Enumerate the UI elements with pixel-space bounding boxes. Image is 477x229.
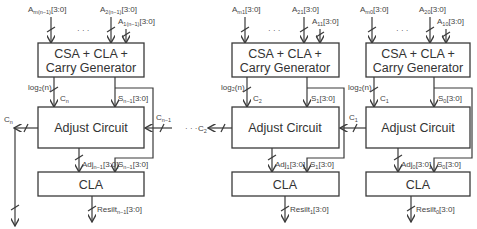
cla-label: CLA xyxy=(79,178,104,192)
adj-label: Adj1[3:0] xyxy=(275,160,305,170)
carry-in-label: C2 xyxy=(253,94,262,104)
block-n-minus-1: Am(n−1)[3:0] A2(n−1)[3:0] A1(n−1)[3:0] ·… xyxy=(4,5,172,226)
input-label-a1: A11[3:0] xyxy=(312,17,339,27)
ellipsis: · · · xyxy=(268,26,280,35)
block-0: Am0[3:0] A20[3:0] A10[3:0] · · · CSA + C… xyxy=(348,5,472,222)
carry-out-label: Cn xyxy=(4,115,13,125)
sum2-label: S0[3:0] xyxy=(437,160,461,170)
adjust-label: Adjust Circuit xyxy=(248,121,322,135)
csa-label: CSA + CLA + xyxy=(54,47,128,61)
adj-label: Adjn−1[3:0] xyxy=(82,160,118,170)
input-label-a1: A10[3:0] xyxy=(437,17,464,27)
adj-label: Adj0[3:0] xyxy=(401,160,431,170)
carry-save-adder-diagram: Am(n−1)[3:0] A2(n−1)[3:0] A1(n−1)[3:0] ·… xyxy=(0,0,477,229)
cla-label: CLA xyxy=(273,178,298,192)
sum-label: Sn−1[3:0] xyxy=(118,94,148,104)
block-1: Am1[3:0] A21[3:0] A11[3:0] · · · CSA + C… xyxy=(198,5,366,222)
result-label: Resilt1[3:0] xyxy=(290,205,329,215)
carry-out-label: C2 xyxy=(198,124,207,134)
adjust-label: Adjust Circuit xyxy=(54,121,128,135)
sum-label: S0[3:0] xyxy=(438,94,462,104)
input-label-am: Am(n−1)[3:0] xyxy=(28,5,67,15)
csa-label: CSA + CLA + xyxy=(381,47,455,61)
ellipsis: · · · xyxy=(396,26,408,35)
csa-label: Carry Generator xyxy=(240,61,330,75)
sum2-label: Sn−1[3:0] xyxy=(118,160,148,170)
input-label-a1: A1(n−1)[3:0] xyxy=(118,17,155,27)
input-label-am: Am1[3:0] xyxy=(232,5,261,15)
carry-right-label: Cn−1 xyxy=(156,113,171,123)
cla-label: CLA xyxy=(406,178,431,192)
input-label-a2: A21[3:0] xyxy=(292,5,319,15)
sum2-label: S1[3:0] xyxy=(310,160,334,170)
ellipsis: · · · xyxy=(185,124,197,133)
csa-label: Carry Generator xyxy=(46,61,136,75)
input-label-a2: A20[3:0] xyxy=(419,5,446,15)
sum-label: S1[3:0] xyxy=(311,94,335,104)
log2n-label: log₂(n) xyxy=(221,83,245,92)
input-label-am: Am0[3:0] xyxy=(360,5,389,15)
carry-right-label: C1 xyxy=(349,113,358,123)
result-label: Resiltn−1[3:0] xyxy=(97,205,142,215)
carry-in-label: Cn xyxy=(60,94,69,104)
adjust-label: Adjust Circuit xyxy=(381,121,455,135)
ellipsis: · · · xyxy=(77,26,89,35)
result-label: Resilt0[3:0] xyxy=(416,205,455,215)
carry-in-label: C1 xyxy=(380,94,389,104)
log2n-label: log₂(n) xyxy=(28,83,52,92)
input-label-a2: A2(n−1)[3:0] xyxy=(100,5,137,15)
csa-label: CSA + CLA + xyxy=(248,47,322,61)
log2n-label: log₂(n) xyxy=(348,83,372,92)
csa-label: Carry Generator xyxy=(373,61,463,75)
